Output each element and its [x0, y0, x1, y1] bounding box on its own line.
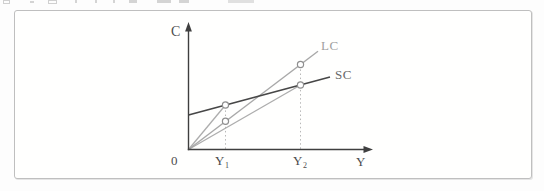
- vertical-axis-label: C: [171, 25, 181, 39]
- origin-label: 0: [171, 154, 178, 167]
- horizontal-axis-label: Y: [356, 155, 366, 168]
- scanned-figure-page: C 0 Y1 Y2 Y LC SC: [0, 0, 544, 191]
- consumption-function-diagram: [0, 0, 544, 191]
- x-tick-y2-base: Y: [293, 153, 303, 168]
- right-arrowhead-icon: [364, 146, 374, 153]
- point-y2-on-sc: [297, 82, 303, 88]
- point-y2-on-lc: [297, 61, 303, 67]
- x-tick-label-y1: Y1: [215, 154, 229, 170]
- x-tick-label-y2: Y2: [293, 154, 307, 170]
- x-tick-y2-subscript: 2: [303, 161, 307, 170]
- point-y1-on-lc: [222, 118, 228, 124]
- x-tick-y1-subscript: 1: [225, 161, 229, 170]
- lc-curve-label: LC: [321, 39, 339, 52]
- origin-ray-to-sc-y1: [189, 105, 226, 150]
- up-arrowhead-icon: [185, 22, 192, 32]
- x-tick-y1-base: Y: [215, 153, 225, 168]
- origin-ray-to-sc-y2: [189, 85, 301, 150]
- point-y1-on-sc: [222, 102, 228, 108]
- sc-curve-label: SC: [335, 68, 352, 81]
